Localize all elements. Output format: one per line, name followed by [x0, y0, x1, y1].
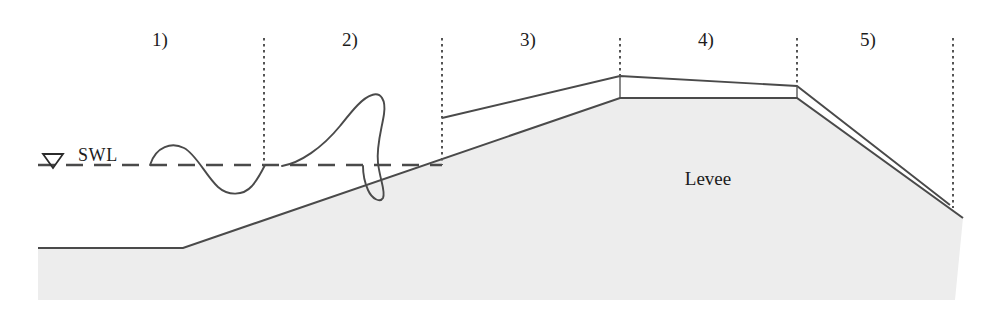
- levee-ground-fill: [38, 98, 963, 300]
- levee-body-group: [38, 98, 963, 300]
- zone-label-1: 1): [152, 29, 168, 51]
- zone-label-2: 2): [342, 29, 358, 51]
- zone-label-4: 4): [698, 29, 714, 51]
- still-water-level-group: SWL: [38, 145, 442, 168]
- diagram-canvas: SWL 1) 2) 3) 4) 5) Levee: [0, 0, 992, 320]
- zone-label-5: 5): [860, 29, 876, 51]
- incident-wave-group: [150, 145, 265, 193]
- levee-label: Levee: [685, 168, 731, 189]
- incident-sinusoidal-wave: [150, 145, 265, 193]
- swl-label: SWL: [78, 145, 118, 165]
- levee-wave-zones-diagram: SWL 1) 2) 3) 4) 5) Levee: [0, 0, 992, 320]
- zone-label-3: 3): [520, 29, 536, 51]
- zone-labels-group: 1) 2) 3) 4) 5): [152, 29, 876, 51]
